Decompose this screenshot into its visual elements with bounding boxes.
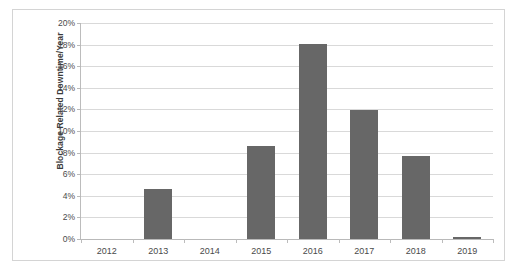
bar-category-2016[interactable]: 2016 xyxy=(287,23,339,239)
y-tick-label: 20% xyxy=(58,18,75,28)
bar[interactable] xyxy=(453,237,481,239)
bar-category-2018[interactable]: 2018 xyxy=(390,23,442,239)
x-tick-label: 2012 xyxy=(97,246,117,256)
y-tick-label: 16% xyxy=(58,61,75,71)
x-tick-label: 2015 xyxy=(251,246,271,256)
y-axis-title: Blockage Related Downtime/Year xyxy=(55,11,65,191)
bar-category-2013[interactable]: 2013 xyxy=(133,23,185,239)
x-tick-label: 2014 xyxy=(200,246,220,256)
plot-area: 0%2%4%6%8%10%12%14%16%18%20% 20122013201… xyxy=(81,23,493,239)
bar[interactable] xyxy=(247,146,275,239)
x-tick-mark xyxy=(339,239,340,243)
bar[interactable] xyxy=(144,189,172,239)
x-tick-label: 2016 xyxy=(303,246,323,256)
bar[interactable] xyxy=(299,44,327,239)
x-tick-label: 2013 xyxy=(148,246,168,256)
x-tick-mark xyxy=(493,239,494,243)
x-tick-mark xyxy=(236,239,237,243)
bars-layer: 20122013201420152016201720182019 xyxy=(81,23,493,239)
bar[interactable] xyxy=(402,156,430,239)
bar[interactable] xyxy=(350,110,378,239)
x-tick-label: 2019 xyxy=(457,246,477,256)
y-tick-label: 2% xyxy=(63,212,75,222)
x-tick-mark xyxy=(390,239,391,243)
x-tick-mark xyxy=(442,239,443,243)
y-tick-label: 14% xyxy=(58,83,75,93)
chart-frame: Blockage Related Downtime/Year 0%2%4%6%8… xyxy=(12,9,505,261)
bar-category-2014[interactable]: 2014 xyxy=(184,23,236,239)
y-tick-label: 10% xyxy=(58,126,75,136)
x-tick-mark xyxy=(133,239,134,243)
y-tick-label: 12% xyxy=(58,104,75,114)
x-tick-label: 2018 xyxy=(406,246,426,256)
y-tick-label: 6% xyxy=(63,169,75,179)
x-tick-label: 2017 xyxy=(354,246,374,256)
x-tick-mark xyxy=(184,239,185,243)
y-tick-label: 8% xyxy=(63,148,75,158)
bar-category-2019[interactable]: 2019 xyxy=(442,23,494,239)
x-tick-mark xyxy=(81,239,82,243)
x-tick-mark xyxy=(287,239,288,243)
y-tick-label: 0% xyxy=(63,234,75,244)
bar-category-2017[interactable]: 2017 xyxy=(339,23,391,239)
y-tick-label: 4% xyxy=(63,191,75,201)
y-tick-label: 18% xyxy=(58,40,75,50)
bar-category-2012[interactable]: 2012 xyxy=(81,23,133,239)
bar-category-2015[interactable]: 2015 xyxy=(236,23,288,239)
